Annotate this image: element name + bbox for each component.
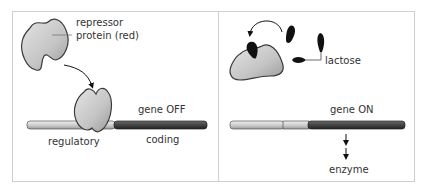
lactose-binding-arrow-icon — [250, 21, 282, 34]
enzyme-label: enzyme — [329, 164, 369, 176]
protein-red-label: protein (red) — [76, 30, 139, 42]
bound-repressor-protein-icon — [74, 88, 111, 131]
gene-off-label: gene OFF — [138, 104, 186, 116]
regulatory-label: regulatory — [48, 136, 100, 148]
binding-arrow-icon — [64, 65, 92, 86]
right-dna-strand — [230, 121, 405, 129]
left-dna-strand — [27, 121, 207, 129]
lactose-label: lactose — [325, 55, 361, 67]
repressor-label: repressor — [76, 17, 123, 29]
coding-label: coding — [146, 134, 179, 146]
gene-on-label: gene ON — [330, 104, 374, 116]
free-repressor-protein-icon — [22, 19, 68, 70]
lactose-leader-line — [306, 52, 321, 60]
